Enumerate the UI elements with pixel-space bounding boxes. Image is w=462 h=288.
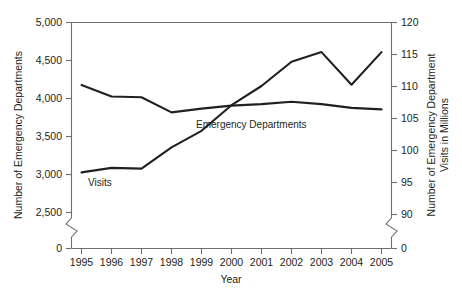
series-annotation-visits: Visits xyxy=(88,177,112,188)
x-tick-2002: 2002 xyxy=(280,256,304,268)
right-tick-115: 115 xyxy=(401,48,418,60)
x-tick-2005: 2005 xyxy=(370,256,394,268)
x-axis-tick-labels: 1995 1996 1997 1998 1999 2000 2001 2002 … xyxy=(70,256,394,268)
x-tick-1998: 1998 xyxy=(160,256,184,268)
x-tick-1999: 1999 xyxy=(190,256,214,268)
left-tick-5000: 5,000 xyxy=(36,16,62,28)
x-tick-1996: 1996 xyxy=(100,256,124,268)
x-axis-ticks xyxy=(82,249,382,255)
left-axis-tick-labels: 5,000 4,500 4,000 3,500 3,000 2,500 0 xyxy=(36,16,62,254)
x-tick-2003: 2003 xyxy=(310,256,334,268)
right-tick-110: 110 xyxy=(401,80,418,92)
right-tick-95: 95 xyxy=(401,176,413,188)
x-tick-2001: 2001 xyxy=(250,256,274,268)
series-line-visits xyxy=(82,52,382,172)
x-tick-1995: 1995 xyxy=(70,256,94,268)
left-tick-3000: 3,000 xyxy=(36,168,62,180)
x-tick-2000: 2000 xyxy=(220,256,244,268)
x-axis-title: Year xyxy=(220,273,242,285)
right-axis-ticks xyxy=(392,23,398,249)
right-tick-0: 0 xyxy=(401,242,407,254)
right-tick-105: 105 xyxy=(401,112,419,124)
x-tick-1997: 1997 xyxy=(130,256,154,268)
left-tick-2500: 2,500 xyxy=(36,206,62,218)
y2-axis-title-line2: Visits in Millions xyxy=(438,98,450,172)
x-tick-2004: 2004 xyxy=(340,256,364,268)
left-tick-3500: 3,500 xyxy=(36,130,62,142)
y2-axis-title-line1: Number of Emergency Department xyxy=(425,54,437,217)
series-annotation-emergency-departments: Emergency Departments xyxy=(196,119,307,130)
right-axis-tick-labels: 120 115 110 105 100 95 90 0 xyxy=(401,16,419,254)
y-axis-title: Number of Emergency Departments xyxy=(12,51,24,219)
left-axis-break-icon xyxy=(66,218,77,237)
chart-container: 5,000 4,500 4,000 3,500 3,000 2,500 0 12… xyxy=(0,0,462,288)
left-tick-0: 0 xyxy=(56,242,62,254)
right-axis-break-icon xyxy=(386,218,397,237)
line-chart: 5,000 4,500 4,000 3,500 3,000 2,500 0 12… xyxy=(0,0,462,288)
series-line-emergency-departments xyxy=(82,85,382,112)
right-tick-120: 120 xyxy=(401,16,419,28)
left-tick-4500: 4,500 xyxy=(36,54,62,66)
left-tick-4000: 4,000 xyxy=(36,92,62,104)
right-tick-90: 90 xyxy=(401,208,413,220)
right-tick-100: 100 xyxy=(401,144,419,156)
left-axis-ticks xyxy=(66,23,72,249)
